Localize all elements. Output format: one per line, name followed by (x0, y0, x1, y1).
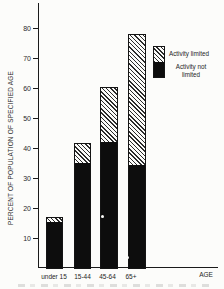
y-tick-mark (33, 148, 39, 149)
y-tick-mark (33, 88, 39, 89)
bar-under-15 (46, 217, 64, 269)
segment-activity-not-limited (75, 163, 91, 268)
segment-activity-limited (101, 88, 117, 144)
segment-activity-not-limited (129, 165, 145, 269)
y-tick-label: 60 (13, 85, 31, 92)
y-tick-label: 10 (13, 235, 31, 242)
y-tick-label: 30 (13, 175, 31, 182)
segment-activity-limited (129, 35, 145, 166)
y-tick-mark (33, 118, 39, 119)
y-tick-label: 40 (13, 145, 31, 152)
y-tick-label: 80 (13, 25, 31, 32)
legend-label-activity-limited: Activity limited (169, 50, 209, 58)
bar-45-64 (100, 87, 118, 270)
legend-swatch (153, 46, 165, 78)
y-tick-label: 50 (13, 115, 31, 122)
scan-speck (101, 215, 104, 218)
cut-off-caption-fragment (18, 284, 210, 287)
y-tick-mark (33, 238, 39, 239)
segment-activity-not-limited (101, 142, 117, 268)
segment-activity-not-limited (47, 222, 63, 268)
scanned-bar-chart-page: PERCENT OF POPULATION OF SPECIFIED AGE 1… (0, 0, 224, 289)
x-category-label: 65+ (111, 273, 151, 280)
y-tick-label: 20 (13, 205, 31, 212)
bar-65- (128, 34, 146, 269)
y-tick-mark (33, 208, 39, 209)
legend-label-activity-not-limited: Activity not limited (166, 63, 216, 78)
y-tick-mark (33, 178, 39, 179)
bar-15-44 (74, 143, 92, 269)
x-axis-title: AGE (196, 271, 216, 278)
segment-activity-limited (75, 144, 91, 164)
y-axis-line (38, 3, 39, 268)
y-tick-mark (33, 58, 39, 59)
legend-swatch-activity-not-limited (154, 62, 164, 77)
y-tick-label: 70 (13, 55, 31, 62)
legend-swatch-activity-limited (154, 47, 164, 62)
scan-speck (126, 256, 129, 259)
y-tick-mark (33, 28, 39, 29)
